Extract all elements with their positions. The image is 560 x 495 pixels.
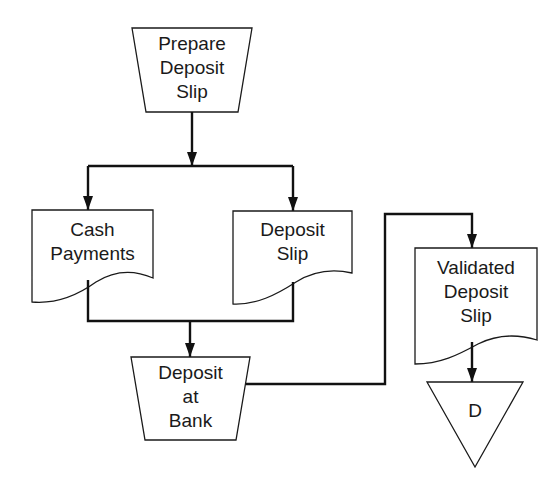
- arrowhead-validated: [467, 234, 477, 248]
- prepare-deposit-slip-label: Prepare Deposit Slip: [132, 32, 252, 104]
- label-line: Payments: [32, 242, 153, 266]
- cash-payments-label: Cash Payments: [32, 218, 153, 266]
- label-line: Slip: [233, 242, 352, 266]
- arrowhead-prepare: [187, 152, 197, 166]
- deposit-at-bank-label: Deposit at Bank: [131, 361, 250, 433]
- deposit-slip-label: Deposit Slip: [233, 218, 352, 266]
- label-line: D: [427, 399, 523, 423]
- arrowhead-slip: [288, 197, 298, 211]
- label-line: Cash: [32, 218, 153, 242]
- arrowhead-bank: [185, 343, 195, 357]
- offline-file-shape: [427, 382, 523, 467]
- label-line: Deposit: [233, 218, 352, 242]
- label-line: Deposit: [415, 280, 537, 304]
- label-line: Slip: [415, 304, 537, 328]
- label-line: at: [131, 385, 250, 409]
- label-line: Deposit: [132, 56, 252, 80]
- label-line: Slip: [132, 80, 252, 104]
- arrowhead-cash: [83, 196, 93, 210]
- label-line: Bank: [131, 409, 250, 433]
- offline-file-label: D: [427, 399, 523, 423]
- label-line: Deposit: [131, 361, 250, 385]
- label-line: Prepare: [132, 32, 252, 56]
- arrowhead-file: [467, 368, 477, 382]
- validated-deposit-slip-label: Validated Deposit Slip: [415, 256, 537, 328]
- label-line: Validated: [415, 256, 537, 280]
